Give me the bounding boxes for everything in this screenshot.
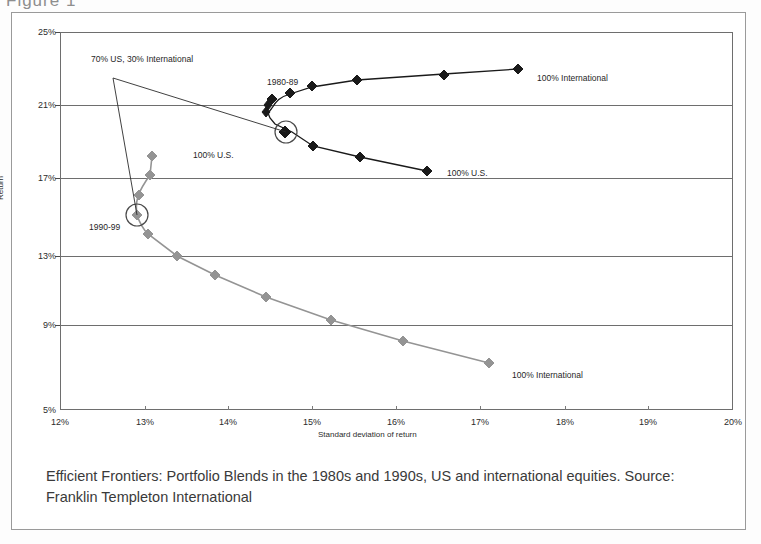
xtick-label-14: 14% [208,417,248,427]
figure-root: Figure 1 25% 21% 17% 13% 9% 5% 12% 13% 1… [0,0,761,544]
xtick-mark-16 [396,406,397,410]
ytick-mark-25 [55,32,60,33]
annotation-blend-note: 70% US, 30% International [91,54,193,64]
ytick-mark-21 [55,105,60,106]
xtick-label-19: 19% [628,417,668,427]
ytick-label-9: 9% [18,320,56,330]
ytick-mark-13 [55,256,60,257]
annotation-series-1990s: 1990-99 [89,222,120,232]
ytick-label-17: 17% [18,173,56,183]
figure-caption: Efficient Frontiers: Portfolio Blends in… [46,466,706,508]
xtick-label-20: 20% [713,417,753,427]
xtick-mark-19 [648,406,649,410]
annotation-us-1990s: 100% U.S. [193,150,234,160]
annotation-us-1980s: 100% U.S. [447,168,488,178]
annotation-series-1980s: 1980-89 [267,77,298,87]
xtick-mark-17 [480,406,481,410]
xtick-mark-14 [228,406,229,410]
ytick-label-25: 25% [18,27,56,37]
xtick-mark-18 [565,406,566,410]
gridline-21 [60,105,733,106]
x-axis-title: Standard deviation of return [318,430,417,439]
xtick-label-13: 13% [125,417,165,427]
gridline-9 [60,325,733,326]
plot-area-frame [60,32,733,410]
ytick-label-21: 21% [18,100,56,110]
y-axis-title: Return [0,176,5,200]
xtick-label-16: 16% [376,417,416,427]
xtick-mark-13 [145,406,146,410]
ytick-mark-9 [55,325,60,326]
ytick-mark-17 [55,178,60,179]
xtick-label-18: 18% [545,417,585,427]
gridline-17 [60,178,733,179]
annotation-intl-1990s: 100% International [512,370,583,380]
gridline-13 [60,256,733,257]
xtick-label-15: 15% [292,417,332,427]
figure-number-stub: Figure 1 [6,0,76,11]
annotation-intl-1980s: 100% International [537,73,608,83]
xtick-mark-15 [312,406,313,410]
xtick-label-17: 17% [460,417,500,427]
xtick-label-12: 12% [40,417,80,427]
ytick-label-5: 5% [18,405,56,415]
ytick-label-13: 13% [18,251,56,261]
